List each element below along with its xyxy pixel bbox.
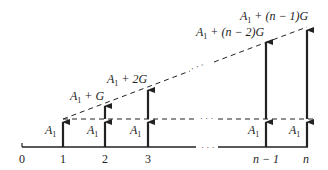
tick-label-2: 2	[102, 152, 108, 166]
base-label-3: A1	[129, 123, 141, 139]
top-label-n-minus-1: A1 + (n − 2)G	[195, 25, 265, 41]
base-line-ellipsis: · · ·	[200, 113, 214, 123]
tick-label-n-minus-1: n − 1	[253, 152, 279, 166]
top-label-2: A1 + G	[69, 89, 104, 105]
tick-label-1: 1	[60, 152, 66, 166]
top-label-3: A1 + 2G	[106, 72, 147, 88]
base-label-2: A1	[86, 123, 98, 139]
base-label-n: A1	[288, 123, 300, 139]
base-label-1: A1	[44, 123, 56, 139]
tick-label-0: 0	[19, 152, 25, 166]
tick-label-3: 3	[145, 152, 151, 166]
tick-label-n: n	[303, 152, 309, 166]
cash-flow-diagram: · · · · · · · · · A1 A1 A1 A1 A1 A1 + G …	[0, 0, 328, 170]
gradient-line-ellipsis: · · ·	[189, 60, 205, 74]
top-label-n: A1 + (n − 1)G	[239, 9, 309, 25]
base-label-n-minus-1: A1	[247, 123, 259, 139]
axis-ellipsis: · · ·	[201, 142, 215, 152]
